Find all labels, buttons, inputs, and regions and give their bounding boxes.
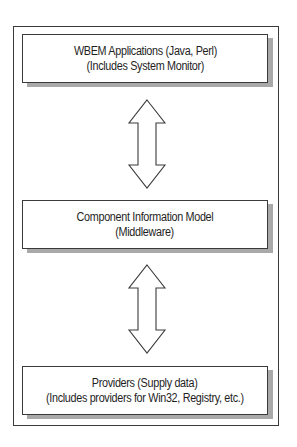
providers-subtitle: (Includes providers for Win32, Registry,… bbox=[46, 391, 244, 406]
wbem-applications-box: WBEM Applications (Java, Perl) (Includes… bbox=[22, 34, 268, 83]
providers-box: Providers (Supply data) (Includes provid… bbox=[22, 366, 268, 415]
bidirectional-arrow-icon bbox=[127, 264, 167, 354]
cim-subtitle: (Middleware) bbox=[116, 225, 175, 240]
bidirectional-arrow-icon bbox=[127, 99, 167, 189]
wbem-applications-subtitle: (Includes System Monitor) bbox=[86, 59, 204, 74]
cim-title: Component Information Model bbox=[77, 210, 214, 225]
wbem-applications-title: WBEM Applications (Java, Perl) bbox=[73, 44, 216, 59]
providers-title: Providers (Supply data) bbox=[92, 376, 198, 391]
component-information-model-box: Component Information Model (Middleware) bbox=[22, 200, 268, 249]
